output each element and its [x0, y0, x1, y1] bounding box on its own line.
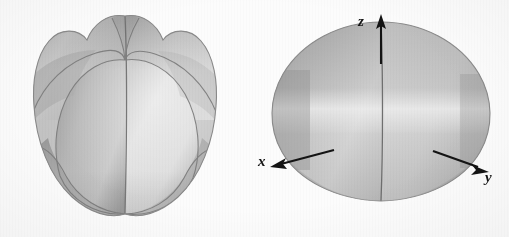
four-lobed-surface-graphic: [0, 0, 250, 237]
four-lobed-surface-body: [0, 0, 250, 237]
panel-four-lobed-surface: [0, 0, 250, 237]
axis-label-x: x: [258, 154, 266, 169]
axis-label-z: z: [358, 14, 364, 29]
axis-label-y: y: [485, 170, 492, 185]
panel-oblate-ellipsoid-surface: z x y: [250, 0, 509, 237]
oblate-ellipsoid-graphic: [250, 0, 509, 237]
ellipsoid-left-falloff: [268, 70, 310, 170]
figure-container: z x y: [0, 0, 509, 237]
ellipsoid-right-falloff: [460, 74, 496, 168]
